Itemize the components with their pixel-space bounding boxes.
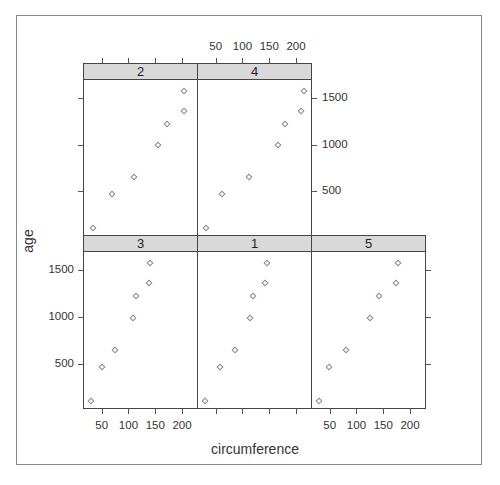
data-point [375, 293, 382, 300]
data-point [393, 279, 400, 286]
strip-label: 3 [84, 236, 197, 252]
data-point [261, 279, 268, 286]
data-point [180, 88, 187, 95]
panel-tree-4: 4 [197, 63, 312, 236]
panel-tree-1: 1 [197, 235, 312, 409]
x-tick-top [155, 58, 156, 63]
panel-tree-2: 2 [83, 63, 198, 236]
data-point [263, 260, 270, 267]
x-tick [356, 409, 357, 414]
data-point [275, 142, 282, 149]
x-tick-top [128, 58, 129, 63]
data-point [219, 190, 226, 197]
x-tick-top [102, 58, 103, 63]
x-tick [102, 409, 103, 414]
y-axis-title: age [20, 229, 36, 252]
y-tick-left-top [78, 145, 83, 146]
data-point [343, 346, 350, 353]
x-tick-label: 50 [318, 419, 342, 431]
x-tick [182, 409, 183, 414]
x-tick-top [182, 58, 183, 63]
y-tick-label-right: 500 [322, 184, 341, 196]
y-tick-right-top [312, 98, 317, 99]
y-tick-left-top [78, 98, 83, 99]
panel-tree-5: 5 [311, 235, 426, 409]
panel-tree-3: 3 [83, 235, 198, 409]
data-point [315, 397, 322, 404]
x-tick-label-top: 100 [230, 40, 254, 52]
data-point [297, 107, 304, 114]
y-tick-label-right: 1000 [322, 138, 348, 150]
x-tick-label: 200 [398, 419, 422, 431]
y-tick-left-bottom [78, 364, 83, 365]
data-point [108, 190, 115, 197]
data-point [394, 260, 401, 267]
data-point [163, 120, 170, 127]
y-tick-label-left: 1500 [36, 263, 74, 275]
data-point [131, 173, 138, 180]
x-tick-label-top: 200 [284, 40, 308, 52]
data-point [87, 397, 94, 404]
data-point [245, 173, 252, 180]
strip-label: 1 [198, 236, 311, 252]
x-tick [155, 409, 156, 414]
y-tick-label-left: 500 [36, 357, 74, 369]
x-tick-label-top: 50 [204, 40, 228, 52]
y-tick-label-right: 1500 [322, 91, 348, 103]
data-point [216, 363, 223, 370]
y-tick-right-bottom [426, 364, 431, 365]
data-point [129, 314, 136, 321]
data-point [202, 224, 209, 231]
x-tick-label: 100 [344, 419, 368, 431]
data-point [155, 142, 162, 149]
data-point [146, 279, 153, 286]
x-axis-title: circumference [0, 441, 500, 457]
y-tick-right-top [312, 191, 317, 192]
y-tick-right-top [312, 145, 317, 146]
y-tick-right-bottom [426, 317, 431, 318]
x-tick-label-top: 150 [257, 40, 281, 52]
x-tick [410, 409, 411, 414]
data-point [89, 224, 96, 231]
data-point [250, 293, 257, 300]
data-point [281, 120, 288, 127]
x-tick [216, 409, 217, 414]
y-tick-left-bottom [78, 270, 83, 271]
x-tick-label: 100 [116, 419, 140, 431]
x-tick-label: 150 [143, 419, 167, 431]
strip-label: 5 [312, 236, 425, 252]
x-tick-label: 150 [371, 419, 395, 431]
x-tick [330, 409, 331, 414]
data-point [300, 88, 307, 95]
data-point [180, 107, 187, 114]
data-point [232, 346, 239, 353]
y-tick-right-bottom [426, 270, 431, 271]
y-tick-label-left: 1000 [36, 310, 74, 322]
y-tick-left-bottom [78, 317, 83, 318]
x-tick [242, 409, 243, 414]
strip-label: 2 [84, 64, 197, 80]
data-point [201, 397, 208, 404]
x-tick [383, 409, 384, 414]
data-point [133, 293, 140, 300]
strip-label: 4 [198, 64, 311, 80]
data-point [99, 363, 106, 370]
x-tick-top [269, 58, 270, 63]
x-tick-top [242, 58, 243, 63]
data-point [146, 260, 153, 267]
x-tick-label: 50 [90, 419, 114, 431]
data-point [247, 314, 254, 321]
data-point [112, 346, 119, 353]
x-tick [269, 409, 270, 414]
x-tick-top [216, 58, 217, 63]
x-tick-top [296, 58, 297, 63]
x-tick [128, 409, 129, 414]
x-tick-label: 200 [170, 419, 194, 431]
x-tick [296, 409, 297, 414]
data-point [326, 363, 333, 370]
data-point [366, 314, 373, 321]
y-tick-left-top [78, 191, 83, 192]
